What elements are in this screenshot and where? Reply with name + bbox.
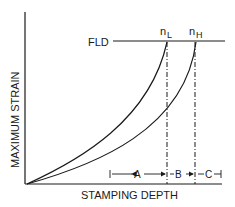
fld-label: FLD [88, 36, 109, 48]
dimension-c-label: C [205, 169, 212, 180]
n-high-label: n H [189, 25, 203, 40]
svg-text:L: L [167, 30, 172, 40]
n-low-label: n L [160, 25, 172, 40]
x-axis-label: STAMPING DEPTH [81, 189, 178, 201]
y-axis-label: MAXIMUM STRAIN [9, 71, 21, 168]
curve-n-high [27, 42, 196, 184]
dimension-a-label: A [134, 169, 141, 180]
dimension-b-label: B [175, 169, 182, 180]
svg-text:H: H [196, 30, 203, 40]
svg-text:n: n [189, 25, 195, 37]
forming-limit-diagram: FLD n L n H A B C STAMPING DEPTH MAXIMUM… [0, 0, 235, 207]
curve-n-low [27, 42, 167, 184]
svg-text:n: n [160, 25, 166, 37]
